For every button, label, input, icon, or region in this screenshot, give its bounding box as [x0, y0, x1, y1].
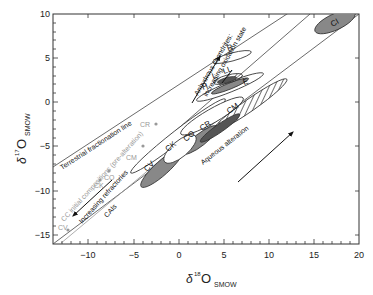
x-tick-labels: −10 −5 0 5 10 15 20	[80, 250, 364, 260]
y-tick-label: −5	[40, 141, 50, 151]
point-label-cv: CV	[58, 224, 68, 231]
x-tick-label: 20	[354, 250, 364, 260]
svg-text:SMOW: SMOW	[24, 113, 31, 136]
x-tick-label: −10	[80, 250, 95, 260]
svg-text:SMOW: SMOW	[214, 281, 237, 288]
y-tick-label: −15	[35, 230, 50, 240]
y-tick-label: 0	[45, 97, 50, 107]
point-label-cr: CR	[140, 121, 150, 128]
y-tick-label: −10	[35, 186, 50, 196]
x-axis-title: δ 18 O SMOW	[186, 271, 237, 288]
svg-text:δ: δ	[186, 272, 193, 286]
y-axis-title: δ 17 O SMOW	[14, 113, 31, 164]
x-tick-label: 0	[176, 250, 181, 260]
terrestrial-label: Terrestrial fractionation line	[59, 119, 133, 170]
x-tick-label: 10	[264, 250, 274, 260]
aqueous-arrow	[238, 132, 293, 182]
y-tick-labels: 10 5 0 −5 −10 −15	[35, 9, 50, 240]
point-label-cm: CM	[126, 154, 137, 161]
x-tick-label: 5	[221, 250, 226, 260]
y-tick-label: 5	[45, 53, 50, 63]
oxygen-isotope-chart: CI R LL L H E CM CR CO CK CV CR CM CO CK…	[0, 0, 373, 295]
x-tick-label: 15	[309, 250, 319, 260]
x-tick-label: −5	[129, 250, 139, 260]
svg-text:O: O	[201, 271, 211, 286]
y-tick-label: 10	[40, 9, 50, 19]
svg-text:δ: δ	[15, 157, 29, 164]
svg-text:O: O	[14, 139, 29, 149]
